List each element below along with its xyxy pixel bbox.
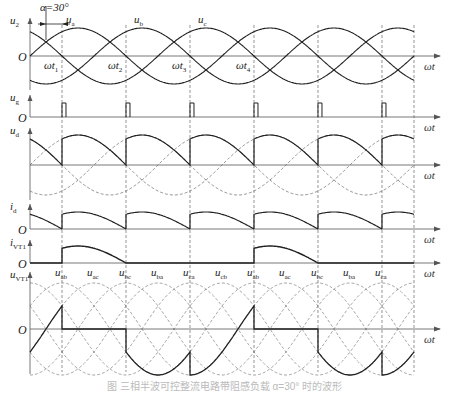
uvt1-omega-t-label: ωt xyxy=(424,333,435,345)
gate-pulse xyxy=(318,103,322,117)
uvt1-x-arrow-icon xyxy=(434,327,441,332)
vertical-dashed-gridlines xyxy=(62,25,414,372)
u2-axis-label: u2 xyxy=(10,15,19,29)
gate-pulse xyxy=(126,103,130,117)
alpha-label: α=30° xyxy=(40,2,69,13)
u2-omega-t-label: ωt xyxy=(424,60,435,72)
id-omega-t-label: ωt xyxy=(424,233,435,245)
ivt1-y-arrow-icon xyxy=(28,240,33,246)
arrow-right-icon xyxy=(40,22,46,26)
ug-omega-t-label: ωt xyxy=(424,121,435,133)
ivt1-current-wave xyxy=(30,246,414,263)
ug-axis-label: ug xyxy=(10,92,19,106)
phase-label-ua: ua xyxy=(66,14,75,28)
line-voltage-label-uca: uca xyxy=(375,267,387,281)
ivt1-axis-label: iVT1 xyxy=(10,237,26,251)
line-voltage-label-uca: uca xyxy=(183,267,195,281)
dashed-reference-waveforms xyxy=(30,135,414,375)
ud-omega-t-label: ωt xyxy=(424,169,435,181)
uvt1-voltage-wave xyxy=(30,306,414,375)
ivt1-omega-t-label: ωt xyxy=(424,267,435,279)
u2-x-arrow-icon xyxy=(434,54,441,59)
time-mark-wt2: ωt2 xyxy=(108,60,122,74)
line-voltage-label-uab: uab xyxy=(55,267,67,281)
axes xyxy=(28,18,442,374)
id-current-wave xyxy=(30,212,414,229)
figure-caption: 图 三相半波可控整流电路带阻感负载 α=30° 时的波形 xyxy=(0,378,449,393)
ud-x-arrow-icon xyxy=(434,163,441,168)
line-voltage-label-ucb: ucb xyxy=(215,267,227,281)
id-axis-label: id xyxy=(10,201,17,215)
ud-output-wave xyxy=(30,135,414,165)
line-voltage-label-ubc: ubc xyxy=(311,267,323,281)
gate-pulse xyxy=(254,103,258,117)
gate-pulse xyxy=(190,103,194,117)
line-voltage-label-uba: uba xyxy=(151,267,163,281)
u2-y-arrow-icon xyxy=(28,18,33,24)
ivt1-origin-label: O xyxy=(18,257,27,272)
line-voltage-label-ubc: ubc xyxy=(119,267,131,281)
line-voltage-label-uac: uac xyxy=(279,267,291,281)
solid-waveforms xyxy=(30,28,414,375)
line-voltage-label-uba: uba xyxy=(343,267,355,281)
time-mark-wt4: ωt4 xyxy=(236,60,250,74)
phase-label-uc: uc xyxy=(198,14,207,28)
u2-origin-label: O xyxy=(18,50,27,65)
phase-label-ub: ub xyxy=(134,14,143,28)
id-origin-label: O xyxy=(18,223,27,238)
ud-axis-label: ud xyxy=(10,125,19,139)
ud-y-arrow-icon xyxy=(28,128,33,134)
time-mark-wt1: ωt1 xyxy=(44,60,58,74)
ivt1-x-arrow-icon xyxy=(434,261,441,266)
id-x-arrow-icon xyxy=(434,227,441,232)
line-voltage-label-uac: uac xyxy=(87,267,99,281)
ug-origin-label: O xyxy=(18,111,27,126)
gate-pulse xyxy=(62,103,66,117)
ug-x-arrow-icon xyxy=(434,115,441,120)
id-y-arrow-icon xyxy=(28,204,33,210)
uvt1-origin-label: O xyxy=(18,323,27,338)
ug-y-arrow-icon xyxy=(28,95,33,101)
time-mark-wt3: ωt3 xyxy=(172,60,186,74)
line-voltage-label-uab: uab xyxy=(247,267,259,281)
gate-pulse xyxy=(382,103,386,117)
